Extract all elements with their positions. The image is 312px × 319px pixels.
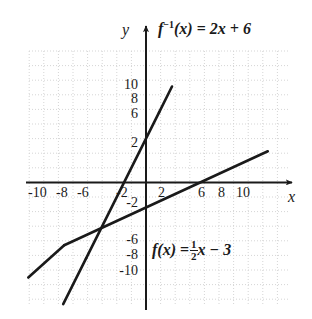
graph-figure: f−1(x) = 2x + 6 f(x) =12x − 3 y x 10 8 6… [0,0,312,319]
x-tick-label-10: 10 [236,186,250,200]
inverse-function-equation: f−1(x) = 2x + 6 [158,21,251,37]
fraction-denominator: 2 [190,251,198,262]
x-tick-label-2: 2 [158,186,165,200]
x-tick-label-6: 6 [198,186,205,200]
x-tick-label-8: 8 [218,186,225,200]
y-tick-label-2: 2 [108,136,138,150]
x-tick-label-minus-10: -10 [28,186,47,200]
y-axis-label: y [122,22,129,38]
y-tick-label-6: 6 [108,107,138,121]
x-axis-label: x [288,189,295,205]
y-tick-label-minus-6: -6 [108,233,138,247]
inverse-fn-exponent: −1 [163,19,174,30]
inverse-fn-arg: (x) [174,20,193,37]
grid-lines-vertical [29,51,277,306]
x-tick-label-minus-8: -8 [56,186,68,200]
inverse-fn-rhs: 2x + 6 [210,20,251,37]
one-half-fraction: 12 [190,239,198,262]
fn-rhs-tail: x − 3 [198,241,232,258]
x-tick-label-minus-6: -6 [77,186,89,200]
fn-equals: = [180,241,189,258]
y-tick-label-10: 10 [108,78,138,92]
y-tick-label-minus-10: -10 [104,264,138,278]
y-tick-label-8: 8 [108,92,138,106]
y-tick-label-minus-8: -8 [108,248,138,262]
line-inverse-function-extension [63,258,86,304]
inverse-fn-equals: = [197,20,206,37]
x-tick-label-minus-2: -2 [116,186,128,200]
fn-arg: (x) [157,241,176,258]
coordinate-plane [0,0,312,319]
function-equation: f(x) =12x − 3 [152,240,231,263]
